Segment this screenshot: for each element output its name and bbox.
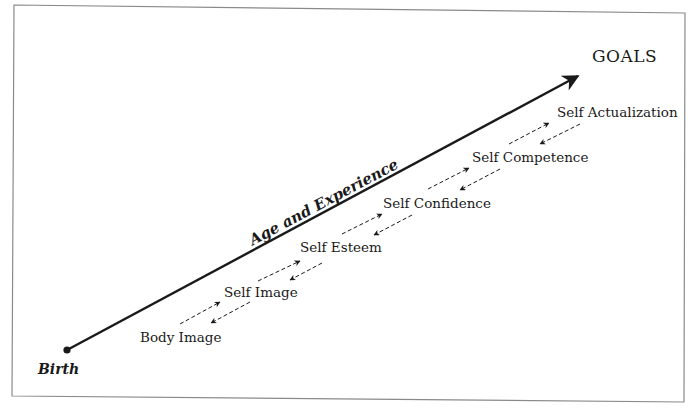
stage-self-image: Self Image <box>224 286 298 300</box>
goals-label: GOALS <box>592 48 657 65</box>
diagram-canvas: GOALS Birth Age and Experience Body Imag… <box>0 0 695 409</box>
diagram-graphics <box>0 0 695 409</box>
stage-self-competence: Self Competence <box>472 151 588 165</box>
stage-self-confidence: Self Confidence <box>383 197 491 211</box>
stage-self-actualization: Self Actualization <box>557 106 678 120</box>
birth-dot <box>63 346 70 353</box>
birth-label: Birth <box>38 362 79 376</box>
stage-self-esteem: Self Esteem <box>300 241 382 255</box>
stage-body-image: Body Image <box>140 331 221 345</box>
frame-border <box>12 5 685 402</box>
age-experience-arrow <box>67 76 578 350</box>
